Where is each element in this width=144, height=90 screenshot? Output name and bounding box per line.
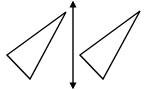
right-triangle <box>80 11 140 79</box>
left-triangle <box>7 12 66 79</box>
diagram-canvas <box>0 0 144 90</box>
